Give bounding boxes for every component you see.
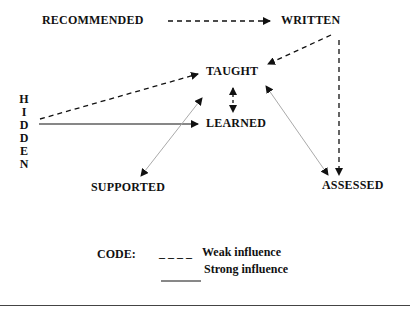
- node-taught: TAUGHT: [206, 64, 258, 79]
- node-recommended: RECOMMENDED: [42, 13, 144, 28]
- edge-hidden-taught: [40, 74, 198, 119]
- legend-strong-label: Strong influence: [204, 262, 288, 277]
- node-assessed: ASSESSED: [322, 178, 384, 193]
- legend-weak-symbol: _ _ _ _: [159, 246, 192, 261]
- legend-title: CODE:: [97, 247, 136, 262]
- node-written: WRITTEN: [281, 13, 340, 28]
- node-hidden: H I D D E N: [19, 93, 29, 171]
- bottom-rule: [0, 305, 410, 306]
- legend-weak-label: Weak influence: [202, 245, 281, 260]
- edge-written-taught: [268, 35, 331, 64]
- node-supported: SUPPORTED: [91, 180, 165, 195]
- node-learned: LEARNED: [206, 116, 266, 131]
- edge-taught-supported: [141, 98, 202, 176]
- edge-taught-assessed: [266, 86, 328, 175]
